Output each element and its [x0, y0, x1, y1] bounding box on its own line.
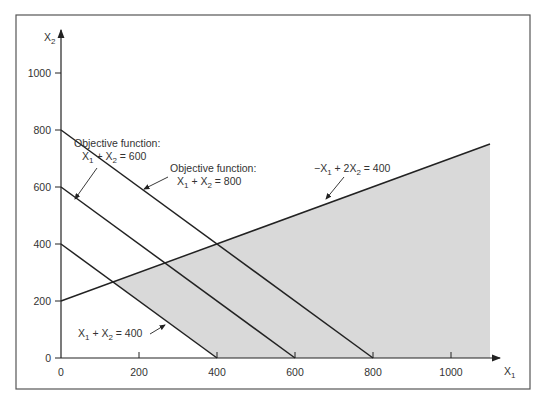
y-axis-label: X2 [44, 31, 56, 46]
svg-text:0: 0 [58, 366, 64, 378]
svg-text:X1 + X2 = 800: X1 + X2 = 800 [177, 175, 242, 190]
svg-text:200: 200 [33, 295, 51, 307]
svg-text:1000: 1000 [439, 366, 463, 378]
annotation-x1-x2-400: X1 + X2 = 400 [78, 325, 165, 342]
svg-text:1000: 1000 [28, 67, 52, 79]
svg-text:600: 600 [33, 181, 51, 193]
lp-chart: 0 200 400 600 800 1000 0 200 400 600 800… [0, 0, 544, 400]
svg-text:400: 400 [33, 238, 51, 250]
svg-text:800: 800 [33, 124, 51, 136]
svg-text:Objective function:: Objective function: [170, 162, 256, 174]
x-tick-labels: 0 200 400 600 800 1000 [58, 366, 463, 378]
svg-text:200: 200 [130, 366, 148, 378]
feasible-region [113, 144, 490, 358]
y-tick-labels: 0 200 400 600 800 1000 [28, 67, 52, 364]
svg-text:0: 0 [45, 352, 51, 364]
annotation-objective-800: Objective function: X1 + X2 = 800 [144, 162, 256, 190]
svg-text:−X1 + 2X2 = 400: −X1 + 2X2 = 400 [314, 162, 391, 177]
svg-text:Objective function:: Objective function: [74, 137, 160, 149]
svg-text:600: 600 [286, 366, 304, 378]
y-ticks [55, 73, 61, 358]
x-axis-label: X1 [504, 365, 516, 380]
svg-text:X1 + X2 = 400: X1 + X2 = 400 [78, 327, 143, 342]
svg-text:800: 800 [364, 366, 382, 378]
annotation-objective-600: Objective function: X1 + X2 = 600 [74, 137, 160, 199]
svg-text:400: 400 [208, 366, 226, 378]
